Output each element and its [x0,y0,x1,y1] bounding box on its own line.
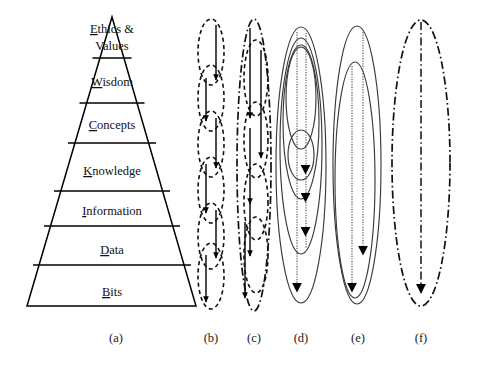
tier-initial-wisdom: W [91,75,103,89]
pyramid-tier-label-information: Information [82,204,142,218]
canvas-background [0,0,478,365]
tier-initial-knowledge: K [83,164,92,178]
pyramid-tier-label-wisdom: Wisdom [91,75,133,89]
tier-rest-concepts: oncepts [97,118,135,132]
pyramid-tier-label-bits: Bits [102,285,122,299]
tier-rest-information: nformation [86,204,142,218]
tier-rest-bits: its [110,285,122,299]
tier-initial-data: D [100,243,109,257]
caption-e: (e) [351,331,365,345]
caption-a: (a) [109,331,123,345]
caption-c: (c) [247,331,261,345]
tier-label-values: Values [95,39,128,53]
pyramid-tier-label-concepts: Concepts [89,118,136,132]
figure-canvas: Ethics & Values Wisdom Concepts Knowledg… [0,0,478,365]
tier-rest-wisdom: isdom [102,75,133,89]
svg-text:Ethics &: Ethics & [90,22,134,36]
tier-rest-data: ata [109,243,124,257]
pyramid-tier-label-data: Data [100,243,124,257]
tier-initial-concepts: C [89,118,97,132]
tier-rest-knowledge: nowledge [92,164,141,178]
tier-rest-ethics: thics & [98,22,135,36]
pyramid-tier-label-knowledge: Knowledge [83,164,141,178]
caption-d: (d) [294,331,309,345]
caption-b: (b) [204,331,219,345]
tier-initial-bits: B [102,285,110,299]
caption-f: (f) [415,331,428,345]
